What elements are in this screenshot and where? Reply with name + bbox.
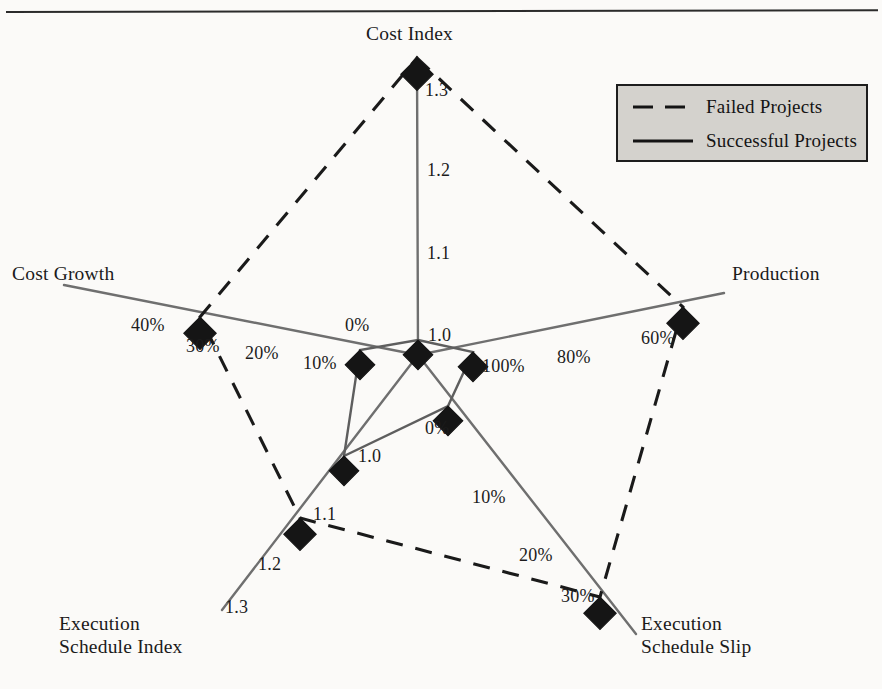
tick-cost-index-1-0: 1.0: [428, 325, 451, 346]
tick-esi-1-0: 1.0: [358, 446, 381, 467]
tick-esi-1-3: 1.3: [225, 597, 248, 618]
tick-production-100: 100%: [482, 356, 525, 377]
tick-cost-index-1-1: 1.1: [427, 243, 450, 264]
tick-cost-growth-10: 10%: [303, 353, 337, 374]
tick-production-80: 80%: [557, 347, 591, 368]
marker-success-execution-schedule-index: [329, 456, 359, 486]
axis-line-cost-index: [417, 57, 418, 355]
legend-swatch-dashed-line: [632, 100, 694, 114]
tick-cost-growth-30: 30%: [186, 336, 220, 357]
legend-swatch-solid-line: [632, 134, 694, 148]
tick-cost-index-1-3: 1.3: [425, 80, 448, 101]
tick-ess-10: 10%: [472, 487, 506, 508]
legend-label-failed-projects: Failed Projects: [706, 96, 822, 118]
tick-ess-0: 0%: [425, 418, 449, 439]
tick-esi-1-2: 1.2: [258, 554, 281, 575]
legend-entry-failed-projects: Failed Projects: [632, 92, 822, 122]
chart-legend: Failed Projects Successful Projects: [616, 84, 868, 162]
axis-title-cost-growth: Cost Growth: [12, 262, 114, 285]
legend-label-successful-projects: Successful Projects: [706, 130, 857, 152]
tick-esi-1-1: 1.1: [313, 504, 336, 525]
legend-entry-successful-projects: Successful Projects: [632, 126, 857, 156]
axis-title-production: Production: [732, 262, 820, 285]
axis-title-execution-schedule-slip: Execution Schedule Slip: [641, 612, 751, 658]
tick-cost-index-1-2: 1.2: [427, 160, 450, 181]
axis-title-execution-schedule-index: Execution Schedule Index: [59, 612, 183, 658]
axis-title-cost-index: Cost Index: [366, 22, 453, 45]
marker-success-cost-growth: [345, 350, 375, 380]
tick-cost-growth-20: 20%: [245, 343, 279, 364]
tick-cost-growth-40: 40%: [131, 315, 165, 336]
axis-line-execution-schedule-slip: [418, 355, 636, 634]
tick-cost-growth-0: 0%: [345, 315, 369, 336]
axis-line-execution-schedule-index: [222, 355, 418, 610]
tick-production-60: 60%: [641, 328, 675, 349]
tick-ess-30: 30%: [561, 586, 595, 607]
radar-chart-figure: Cost Index Production Execution Schedule…: [0, 0, 882, 689]
tick-ess-20: 20%: [519, 545, 553, 566]
